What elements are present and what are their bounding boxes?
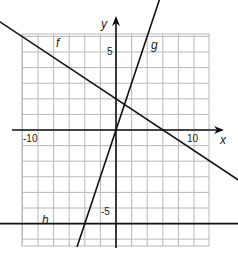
y-tick-label-neg5: -5 [101, 206, 110, 217]
x-tick-label-neg10: -10 [23, 133, 38, 144]
x-axis-label: x [219, 133, 227, 147]
function-lines [0, 0, 238, 247]
y-axis-label: y [100, 17, 108, 31]
line-label-g: g [151, 38, 158, 52]
coordinate-plane: x y -10 10 5 -5 f g h [0, 0, 238, 260]
line-label-h: h [42, 213, 49, 227]
line-label-f: f [56, 36, 61, 50]
y-tick-label-5: 5 [107, 46, 113, 57]
x-tick-label-10: 10 [187, 133, 199, 144]
